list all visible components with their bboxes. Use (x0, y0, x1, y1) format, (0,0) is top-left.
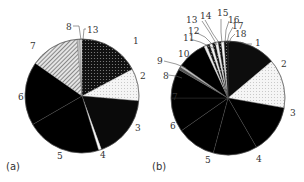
slice-label-a-6: 6 (18, 92, 24, 102)
slice-label-b-4: 4 (256, 154, 262, 164)
slice-label-b-18: 18 (235, 29, 247, 39)
leader-line-b (221, 19, 222, 43)
slice-label-a-8: 8 (66, 22, 72, 32)
leader-line-a (83, 29, 86, 40)
slice-label-a-2: 2 (140, 71, 146, 81)
pie-chart-b: 123456789101112131415161718 (157, 8, 296, 165)
panel-label-a: (a) (6, 161, 20, 172)
slice-label-b-2: 2 (281, 59, 287, 69)
slice-label-a-3: 3 (135, 123, 141, 133)
slice-label-b-8: 8 (163, 71, 169, 81)
slice-label-a-4: 4 (100, 150, 106, 160)
slice-label-b-12: 12 (188, 26, 199, 36)
slice-label-b-15: 15 (217, 8, 229, 18)
slice-label-a-5: 5 (57, 151, 63, 161)
slice-label-b-5: 5 (205, 155, 211, 165)
panel-label-b: (b) (152, 161, 166, 172)
slice-label-b-3: 3 (290, 108, 296, 118)
slice-label-a-13: 13 (87, 25, 99, 35)
slice-label-b-7: 7 (172, 92, 178, 102)
slice-label-a-7: 7 (30, 41, 36, 51)
pie-chart-a: 1234567813 (18, 22, 146, 161)
slice-label-a-1: 1 (133, 36, 139, 46)
leader-line-b (205, 20, 220, 44)
slice-label-b-6: 6 (170, 121, 176, 131)
slice-label-b-1: 1 (255, 38, 261, 48)
pie-charts-figure: 1234567813 123456789101112131415161718 (… (0, 0, 304, 182)
slice-label-b-10: 10 (178, 49, 190, 59)
slice-label-b-9: 9 (157, 56, 163, 66)
slice-label-b-14: 14 (200, 11, 212, 21)
slice-label-b-13: 13 (186, 15, 198, 25)
leader-line-a (73, 26, 81, 40)
